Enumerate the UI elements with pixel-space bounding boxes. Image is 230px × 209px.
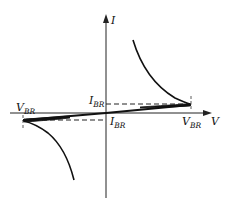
v-br-left-sub: BR	[23, 107, 36, 116]
i-axis-arrow-icon	[103, 14, 109, 23]
i-br-lower-label: IBR	[109, 115, 126, 130]
v-br-right-label: VBR	[182, 115, 201, 130]
lower-left-curve	[24, 121, 74, 180]
iv-diagram: I V VBR VBR IBR IBR	[0, 0, 230, 209]
i-axis-label: I	[110, 14, 116, 27]
i-br-lower-sub: BR	[113, 121, 126, 130]
left-breakdown-hook	[23, 116, 70, 122]
i-br-upper-label: IBR	[88, 94, 105, 109]
v-br-right-sub: BR	[189, 121, 202, 130]
i-br-upper-sub: BR	[92, 100, 105, 109]
v-axis-label: V	[211, 115, 220, 128]
v-br-left-label: VBR	[16, 101, 35, 116]
upper-right-curve	[133, 40, 190, 104]
